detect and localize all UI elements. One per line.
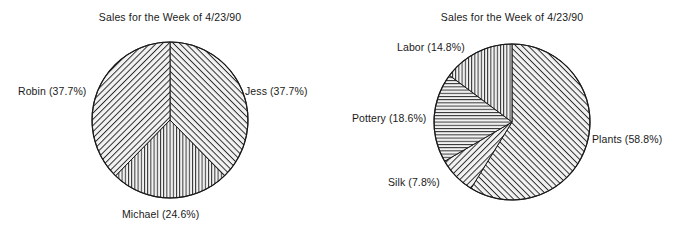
pie-slices-group [92, 42, 248, 198]
pie-chart-sales-by-category: Sales for the Week of 4/23/90 Plants (58… [340, 0, 680, 229]
pie-chart-sales-by-person: Sales for the Week of 4/23/90 Jess (37.7… [0, 0, 340, 229]
pie-chart-canvas-left [0, 0, 340, 229]
slice-label-labor: Labor (14.8%) [397, 41, 465, 53]
slice-label-michael: Michael (24.6%) [122, 208, 199, 220]
slice-label-robin: Robin (37.7%) [18, 85, 86, 97]
slice-label-pottery: Pottery (18.6%) [352, 112, 426, 124]
pie-slices-group [434, 44, 590, 200]
slice-label-silk: Silk (7.8%) [388, 176, 440, 188]
slice-label-plants: Plants (58.8%) [592, 133, 662, 145]
slice-label-jess: Jess (37.7%) [245, 85, 307, 97]
